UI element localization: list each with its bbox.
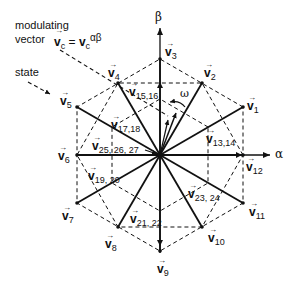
label-v3: →v3: [165, 46, 177, 61]
omega-rotation-arc: [170, 102, 185, 107]
beta-axis-label: β: [155, 11, 162, 23]
label-v10: →v10: [208, 232, 225, 247]
label-v5: →v5: [60, 95, 72, 110]
label-v25-26-27: →v25, 26, 27: [92, 140, 139, 155]
label-v17-18: →v17,18: [111, 119, 140, 134]
omega-label: ω: [180, 88, 189, 99]
vector-label: vector: [15, 34, 45, 45]
label-v7: →v7: [62, 210, 74, 225]
label-v15-16: →v15,16: [129, 86, 158, 101]
label-v19-20: →v19, 20: [88, 170, 120, 185]
label-v23-24: →v23, 24: [188, 188, 220, 203]
label-v1: →v1: [247, 100, 259, 115]
label-v12: →v12: [246, 161, 263, 176]
label-v6: →v6: [58, 150, 70, 165]
state-pointer: [28, 82, 50, 94]
label-v21-22: →v21, 22: [130, 213, 162, 228]
label-v11: →v11: [249, 206, 265, 221]
state-label: state: [15, 67, 39, 78]
label-v2: →v2: [204, 67, 216, 82]
modulating-formula: →vc = vcαβ: [54, 33, 102, 51]
alpha-axis-label: α: [275, 148, 283, 160]
label-v9: →v9: [157, 263, 169, 278]
label-v8: →v8: [105, 238, 117, 253]
label-v13-14: →v13,14: [206, 133, 235, 148]
label-v4: →v4: [108, 67, 120, 82]
